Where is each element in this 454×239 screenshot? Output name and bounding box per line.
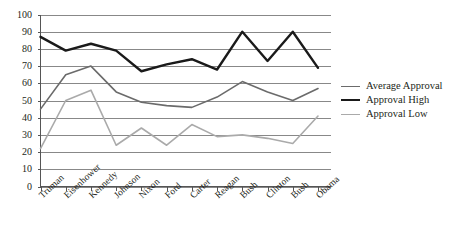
series-line-approval-low [41, 90, 319, 148]
legend-item-average-approval: Average Approval [341, 79, 453, 93]
legend-label-average-approval: Average Approval [366, 80, 442, 92]
approval-ratings-line-chart: 1009080706050403020100 TrumanEisenhowerK… [0, 0, 454, 239]
y-axis-label-70: 70 [2, 61, 32, 71]
y-axis-label-100: 100 [2, 10, 32, 20]
y-axis-label-0: 0 [2, 182, 32, 192]
legend-label-approval-high: Approval High [366, 94, 429, 106]
legend-label-approval-low: Approval Low [366, 108, 428, 120]
axis-lines [41, 15, 331, 187]
series-line-approval-high [41, 32, 319, 72]
gridlines [41, 16, 331, 188]
legend-item-approval-low: Approval Low [341, 107, 453, 121]
legend-swatch-approval-high [341, 99, 360, 101]
chart-legend: Average Approval Approval High Approval … [341, 79, 453, 121]
legend-item-approval-high: Approval High [341, 93, 453, 107]
series-line-average-approval [41, 66, 319, 109]
y-axis-label-90: 90 [2, 27, 32, 37]
y-axis-label-10: 10 [2, 164, 32, 174]
y-axis-label-20: 20 [2, 147, 32, 157]
y-axis-label-50: 50 [2, 96, 32, 106]
y-axis-label-80: 80 [2, 44, 32, 54]
legend-swatch-approval-low [341, 114, 360, 115]
y-axis-label-60: 60 [2, 78, 32, 88]
y-axis-label-40: 40 [2, 113, 32, 123]
legend-swatch-average-approval [341, 86, 360, 87]
y-axis-label-30: 30 [2, 130, 32, 140]
